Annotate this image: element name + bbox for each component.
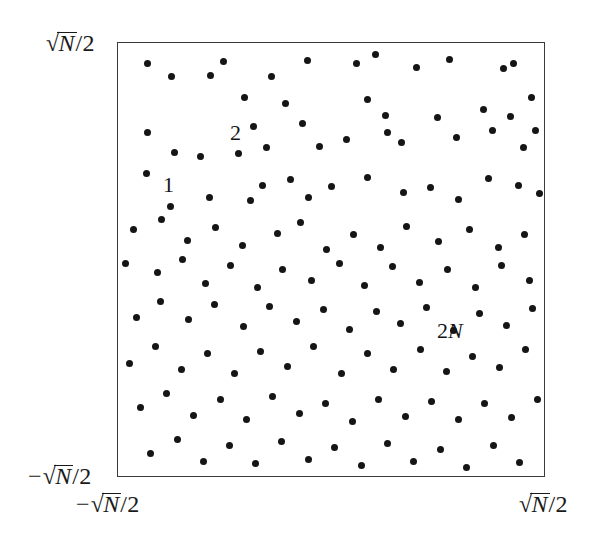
scatter-point (305, 456, 312, 463)
scatter-point (503, 322, 510, 329)
scatter-point (279, 266, 286, 273)
scatter-point (168, 73, 175, 80)
scatter-point (361, 282, 368, 289)
scatter-point (469, 353, 476, 360)
scatter-point (235, 150, 242, 157)
point-label-1: 1 (163, 174, 174, 196)
scatter-point (158, 216, 165, 223)
denominator-2: 2 (127, 491, 139, 517)
scatter-point (241, 94, 248, 101)
scatter-point (247, 197, 254, 204)
minus-sign: − (28, 463, 42, 489)
scatter-point (204, 350, 211, 357)
scatter-point (331, 444, 338, 451)
scatter-point (507, 113, 514, 120)
scatter-point (417, 346, 424, 353)
scatter-point (534, 396, 541, 403)
scatter-point (435, 238, 442, 245)
scatter-point (179, 256, 186, 263)
scatter-point (489, 127, 496, 134)
scatter-point (377, 244, 384, 251)
scatter-point (299, 120, 306, 127)
scatter-point (167, 203, 174, 210)
scatter-point (144, 129, 151, 136)
scatter-point (217, 396, 224, 403)
denominator-2: 2 (79, 463, 91, 489)
scatter-point (498, 262, 505, 269)
scatter-point (516, 459, 523, 466)
scatter-point (480, 106, 487, 113)
scatter-point (485, 175, 492, 182)
scatter-point (190, 412, 197, 419)
point-label-1-number: 1 (163, 172, 174, 197)
scatter-point (220, 58, 227, 65)
scatter-point (240, 323, 247, 330)
scatter-point (231, 370, 238, 377)
scatter-point (293, 318, 300, 325)
scatter-point (316, 143, 323, 150)
scatter-point (375, 396, 382, 403)
scatter-point (402, 413, 409, 420)
scatter-point (250, 123, 257, 130)
radicand-n: N (58, 31, 75, 55)
scatter-point (322, 400, 329, 407)
scatter-point (227, 262, 234, 269)
scatter-point (152, 343, 159, 350)
scatter-point (226, 442, 233, 449)
scatter-point (252, 460, 259, 467)
scatter-point (536, 190, 543, 197)
scatter-point (163, 390, 170, 397)
scatter-point (526, 277, 533, 284)
scatter-point (305, 194, 312, 201)
x-axis-max-label: √N/2 (518, 492, 568, 516)
scatter-point (328, 183, 335, 190)
scatter-point (310, 343, 317, 350)
y-axis-max-label: √N/2 (45, 31, 95, 55)
scatter-point (346, 326, 353, 333)
scatter-point (254, 284, 261, 291)
scatter-point (147, 450, 154, 457)
scatter-point (397, 320, 404, 327)
scatter-point (400, 189, 407, 196)
scatter-point (427, 184, 434, 191)
sqrt-expression: −√N/2 (76, 492, 139, 516)
scatter-point (349, 418, 356, 425)
scatter-point (520, 144, 527, 151)
scatter-point (274, 230, 281, 237)
scatter-point (184, 237, 191, 244)
scatter-point (353, 60, 360, 67)
scatter-point (455, 416, 462, 423)
point-label-2n-number: 2 (437, 318, 448, 343)
scatter-point (130, 226, 137, 233)
scatter-point (212, 224, 219, 231)
point-label-2: 2 (230, 122, 241, 144)
scatter-point (185, 316, 192, 323)
scatter-point (496, 364, 503, 371)
y-axis-min-label: −√N/2 (28, 464, 91, 488)
scatter-point (320, 306, 327, 313)
scatter-point (389, 263, 396, 270)
scatter-figure: √N/2 −√N/2 −√N/2 √N/2 1 2 2N (0, 0, 602, 546)
scatter-point (200, 458, 207, 465)
scatter-point (296, 410, 303, 417)
scatter-point (278, 438, 285, 445)
scatter-point (532, 127, 539, 134)
scatter-point (259, 182, 266, 189)
scatter-point (171, 149, 178, 156)
scatter-point (372, 51, 379, 58)
scatter-point (423, 304, 430, 311)
scatter-point (263, 144, 270, 151)
scatter-point (137, 404, 144, 411)
scatter-point (521, 231, 528, 238)
radicand-n: N (531, 492, 548, 516)
point-label-2n-italic: N (448, 318, 463, 343)
scatter-point (390, 366, 397, 373)
scatter-point (211, 301, 218, 308)
scatter-point (434, 114, 441, 121)
scatter-point (443, 368, 450, 375)
x-axis-min-label: −√N/2 (76, 492, 139, 516)
scatter-point (268, 73, 275, 80)
scatter-point (410, 458, 417, 465)
point-label-2-number: 2 (230, 120, 241, 145)
scatter-point (207, 72, 214, 79)
